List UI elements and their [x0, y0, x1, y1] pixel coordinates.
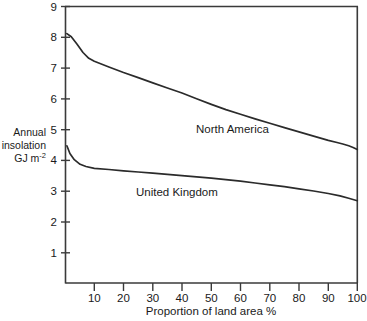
- x-tick-label-70: 70: [263, 292, 276, 304]
- y-axis-title-line-2: insolation: [2, 139, 47, 151]
- x-tick-label-50: 50: [205, 292, 218, 304]
- y-axis-tick-labels: 9 8 7 6 5 4 3 2 1: [51, 1, 58, 259]
- x-tick-label-20: 20: [117, 292, 130, 304]
- x-tick-label-40: 40: [176, 292, 189, 304]
- y-tick-label-5: 5: [51, 124, 57, 136]
- x-tick-label-80: 80: [293, 292, 306, 304]
- y-tick-label-7: 7: [51, 62, 57, 74]
- y-axis-title-unit: GJ m: [14, 152, 39, 164]
- x-tick-label-60: 60: [234, 292, 247, 304]
- y-tick-label-9: 9: [51, 1, 57, 13]
- x-axis-ticks: [94, 283, 357, 291]
- x-tick-label-90: 90: [322, 292, 335, 304]
- y-tick-label-2: 2: [51, 216, 57, 228]
- y-axis-title-exponent: -2: [39, 151, 46, 160]
- y-tick-label-8: 8: [51, 31, 57, 43]
- data-curves: [67, 34, 357, 201]
- plot-frame: [65, 7, 358, 284]
- series-label-united-kingdom: United Kingdom: [136, 186, 218, 198]
- y-axis-title-line-1: Annual: [13, 126, 46, 138]
- chart-svg: 9 8 7 6 5 4 3 2 1 10 20 30: [0, 0, 367, 321]
- y-tick-label-4: 4: [51, 154, 58, 166]
- x-axis-title: Proportion of land area %: [146, 305, 276, 317]
- y-axis-title: Annual insolation GJ m-2: [2, 126, 47, 164]
- series-label-north-america: North America: [196, 123, 269, 135]
- x-tick-label-30: 30: [146, 292, 159, 304]
- insolation-chart-figure: 9 8 7 6 5 4 3 2 1 10 20 30: [0, 0, 367, 321]
- x-tick-label-100: 100: [347, 292, 366, 304]
- y-axis-title-line-3: GJ m-2: [14, 151, 46, 164]
- series-annotations: North America United Kingdom: [136, 123, 269, 198]
- y-tick-label-3: 3: [51, 185, 57, 197]
- y-tick-label-1: 1: [51, 247, 57, 259]
- x-tick-label-10: 10: [88, 292, 101, 304]
- x-axis-tick-labels: 10 20 30 40 50 60 70 80 90 100: [88, 292, 367, 304]
- y-tick-label-6: 6: [51, 93, 57, 105]
